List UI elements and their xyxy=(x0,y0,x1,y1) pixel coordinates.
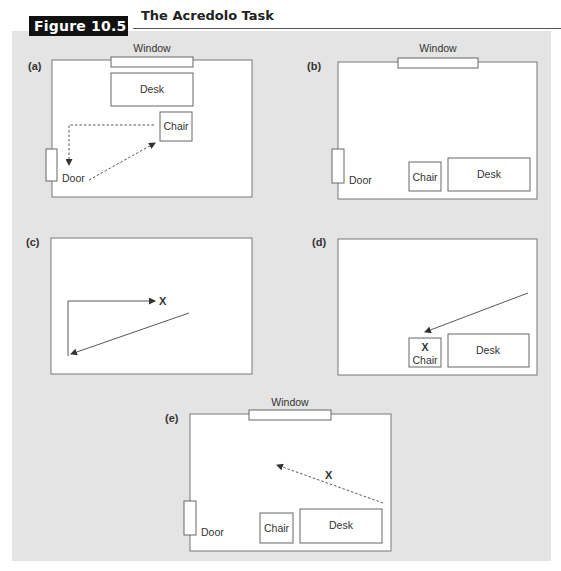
window-label-e: Window xyxy=(271,396,309,408)
window-a xyxy=(111,57,193,67)
panel-e: (e) Window X Door Chair Desk xyxy=(165,396,391,551)
door-b xyxy=(332,149,344,183)
panel-tag-d: (d) xyxy=(312,236,326,248)
acredolo-diagram: (a) Window Desk Chair Door (b) Window Do… xyxy=(0,0,561,571)
window-label-a: Window xyxy=(133,42,171,54)
chair-label-a: Chair xyxy=(163,120,189,132)
desk-label-a: Desk xyxy=(140,83,165,95)
chair-label-e: Chair xyxy=(264,522,290,534)
target-x-e: X xyxy=(325,469,333,481)
panel-tag-c: (c) xyxy=(26,236,40,248)
desk-label-e: Desk xyxy=(329,519,354,531)
panel-c: (c) X xyxy=(26,236,252,374)
door-label-a: Door xyxy=(62,172,85,184)
window-b xyxy=(398,58,478,68)
door-e xyxy=(184,501,196,535)
panel-d: (d) X Chair Desk xyxy=(312,236,537,375)
panel-b: (b) Window Door Chair Desk xyxy=(307,42,537,199)
door-label-e: Door xyxy=(201,526,224,538)
target-x-d: X xyxy=(421,341,428,353)
room-c xyxy=(51,238,252,374)
window-label-b: Window xyxy=(419,42,457,54)
chair-label-b: Chair xyxy=(412,171,438,183)
target-x-c: X xyxy=(159,295,167,307)
panel-tag-a: (a) xyxy=(28,60,42,72)
chair-label-d: Chair xyxy=(412,354,438,366)
panel-tag-e: (e) xyxy=(165,412,179,424)
desk-label-d: Desk xyxy=(476,344,501,356)
panel-a: (a) Window Desk Chair Door xyxy=(28,42,252,197)
panel-tag-b: (b) xyxy=(307,60,321,72)
door-a xyxy=(46,149,57,181)
door-label-b: Door xyxy=(349,174,372,186)
desk-label-b: Desk xyxy=(477,168,502,180)
window-e xyxy=(249,410,331,420)
